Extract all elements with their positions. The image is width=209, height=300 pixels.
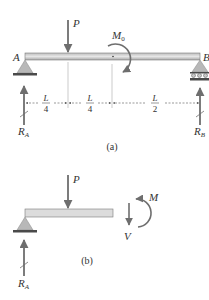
reaction-ra-label: RA bbox=[17, 277, 30, 291]
reaction-ra-label: RA bbox=[17, 125, 30, 139]
ground-a bbox=[13, 73, 37, 76]
beam-diagram: P M0 A B RA RB bbox=[0, 0, 209, 300]
beam-center-dot bbox=[112, 56, 114, 58]
svg-text:L: L bbox=[86, 93, 92, 103]
svg-text:L: L bbox=[151, 93, 157, 103]
moment-m-label: M bbox=[148, 191, 159, 203]
moment-m0-label: M0 bbox=[111, 29, 125, 43]
pin-support-a bbox=[17, 217, 33, 230]
svg-text:2: 2 bbox=[153, 104, 158, 114]
roller-wheel bbox=[198, 74, 202, 78]
figure-b: P V M RA (b) bbox=[13, 173, 159, 291]
dimension-label-3: L 2 bbox=[151, 93, 159, 114]
ground-b bbox=[190, 78, 209, 81]
support-a-label: A bbox=[12, 51, 20, 63]
figure-a: P M0 A B RA RB bbox=[12, 17, 209, 153]
load-p-label: P bbox=[72, 17, 80, 29]
moment-m-arrow bbox=[136, 199, 151, 227]
ground-a bbox=[13, 230, 37, 233]
svg-text:4: 4 bbox=[44, 104, 49, 114]
caption-b: (b) bbox=[81, 255, 93, 267]
dimension-label-1: L 4 bbox=[42, 93, 50, 114]
load-p-label: P bbox=[72, 173, 80, 185]
svg-text:L: L bbox=[42, 93, 48, 103]
svg-text:4: 4 bbox=[88, 104, 93, 114]
roller-wheel bbox=[204, 74, 208, 78]
shear-v-label: V bbox=[124, 230, 132, 242]
caption-a: (a) bbox=[106, 141, 117, 153]
roller-wheel bbox=[192, 74, 196, 78]
beam-segment bbox=[25, 209, 113, 217]
support-b-label: B bbox=[203, 51, 209, 63]
dimension-label-2: L 4 bbox=[86, 93, 94, 114]
reaction-rb-label: RB bbox=[193, 125, 206, 139]
